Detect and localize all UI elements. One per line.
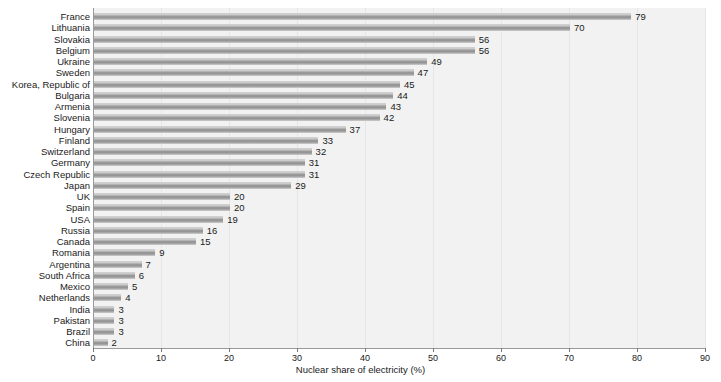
tick-mark-90 [705,348,706,352]
bar [94,58,427,65]
bar-row: Czech Republic31 [0,169,721,180]
bar [94,317,114,324]
tick-mark-30 [297,348,298,352]
bar-row: Mexico5 [0,281,721,292]
tick-mark-50 [433,348,434,352]
bar-value-label: 7 [146,259,151,270]
bar-row: Slovenia42 [0,112,721,123]
x-tick-label: 30 [292,353,302,363]
bar [94,261,142,268]
bar-value-label: 47 [418,67,429,78]
bar-row: France79 [0,11,721,22]
bar [94,328,114,335]
bar [94,13,631,20]
category-label: Czech Republic [23,169,90,180]
bar-value-label: 56 [479,34,490,45]
bar-row: USA19 [0,214,721,225]
tick-mark-0 [93,348,94,352]
bar-row: Slovakia56 [0,34,721,45]
bar-value-label: 32 [316,146,327,157]
bar-value-label: 29 [295,180,306,191]
category-label: Hungary [54,124,90,135]
bar [94,249,155,256]
bar-row: Hungary37 [0,124,721,135]
bar-row: Japan29 [0,180,721,191]
bar [94,227,203,234]
chart-figure: 0102030405060708090 France79Lithuania70S… [0,0,721,382]
category-label: Bulgaria [55,90,90,101]
bar [94,182,291,189]
bar-value-label: 42 [384,112,395,123]
bar-row: Bulgaria44 [0,90,721,101]
x-tick-label: 40 [360,353,370,363]
category-label: Mexico [60,281,90,292]
bar-row: Canada15 [0,236,721,247]
bar [94,193,230,200]
bar-row: Brazil3 [0,326,721,337]
bar-value-label: 16 [207,225,218,236]
bar-row: China2 [0,337,721,348]
bar [94,272,135,279]
bar [94,81,400,88]
bar-value-label: 4 [125,292,130,303]
bar-value-label: 44 [397,90,408,101]
tick-mark-60 [501,348,502,352]
x-tick-label: 70 [564,353,574,363]
category-label: Slovakia [54,34,90,45]
category-label: France [60,11,90,22]
x-tick-label: 20 [224,353,234,363]
category-label: Russia [61,225,90,236]
bar-row: Switzerland32 [0,146,721,157]
bar-value-label: 6 [139,270,144,281]
bar-value-label: 2 [112,337,117,348]
bar [94,126,346,133]
bar [94,204,230,211]
bar-value-label: 3 [118,304,123,315]
category-label: Romania [52,247,90,258]
bar [94,171,305,178]
bar [94,216,223,223]
bar [94,47,475,54]
bar [94,114,380,121]
bar-value-label: 19 [227,214,238,225]
bar-value-label: 56 [479,45,490,56]
bar-value-label: 3 [118,326,123,337]
tick-mark-20 [229,348,230,352]
bar-value-label: 79 [635,11,646,22]
category-label: Brazil [66,326,90,337]
category-label: Armenia [55,101,90,112]
bar-value-label: 70 [574,22,585,33]
category-label: Netherlands [39,292,90,303]
category-label: Korea, Republic of [12,79,90,90]
category-label: Finland [59,135,90,146]
bar [94,36,475,43]
bar [94,137,318,144]
category-label: Switzerland [41,146,90,157]
bar-value-label: 37 [350,124,361,135]
bar-row: Sweden47 [0,67,721,78]
category-label: UK [77,191,90,202]
bar-row: Lithuania70 [0,22,721,33]
bar [94,339,108,346]
category-label: India [69,304,90,315]
category-label: Ukraine [57,56,90,67]
category-label: Canada [57,236,90,247]
category-label: Japan [64,180,90,191]
bar-value-label: 31 [309,169,320,180]
bar-row: Russia16 [0,225,721,236]
bar [94,24,570,31]
bar [94,159,305,166]
bar-value-label: 15 [200,236,211,247]
tick-mark-10 [161,348,162,352]
category-label: China [65,337,90,348]
bar [94,283,128,290]
category-label: USA [70,214,90,225]
bar [94,306,114,313]
bar [94,148,312,155]
tick-mark-40 [365,348,366,352]
tick-mark-70 [569,348,570,352]
bar-row: Argentina7 [0,259,721,270]
bar-value-label: 9 [159,247,164,258]
category-label: Spain [66,202,90,213]
bar-value-label: 49 [431,56,442,67]
